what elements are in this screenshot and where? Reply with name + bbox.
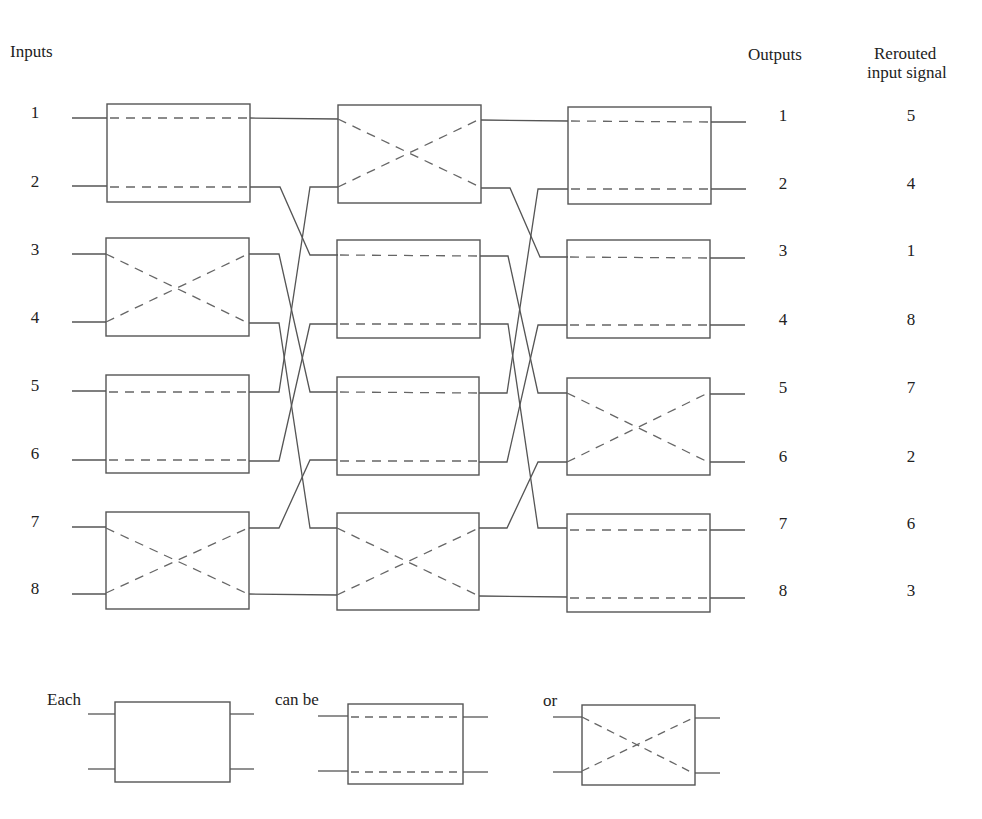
switch-cross — [338, 105, 481, 203]
interstage-wiring-2 — [479, 120, 568, 597]
switch-straight — [567, 240, 745, 338]
switch-straight — [72, 104, 250, 202]
legend-switch-unset — [88, 702, 254, 782]
stage-3 — [567, 107, 746, 612]
legend-switch-straight — [318, 704, 488, 784]
switch-cross — [72, 512, 249, 609]
legend — [88, 702, 720, 785]
stage-1 — [72, 104, 250, 609]
switch-straight — [72, 375, 249, 473]
switch-straight — [568, 107, 746, 204]
switch-cross — [72, 238, 249, 336]
stage-2 — [337, 105, 481, 610]
switch-cross — [337, 513, 479, 610]
switch-straight — [337, 240, 480, 338]
switch-straight — [567, 514, 745, 612]
interstage-wiring-1 — [249, 118, 338, 595]
switch-network-diagram — [0, 0, 982, 819]
legend-switch-cross — [553, 705, 720, 785]
switch-cross — [567, 378, 745, 475]
switch-straight — [337, 377, 479, 475]
